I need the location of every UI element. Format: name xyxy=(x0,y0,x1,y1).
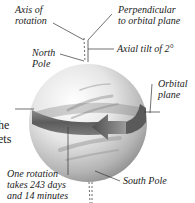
cropped-text-fragment: he ets xyxy=(0,118,11,146)
label-line: Orbital xyxy=(158,78,187,89)
label-axis-of-rotation: Axis of rotation xyxy=(15,4,47,26)
label-one-rotation: One rotation takes 243 days and 14 minut… xyxy=(7,168,68,201)
label-south-pole: South Pole xyxy=(123,175,167,186)
label-perpendicular: Perpendicular to orbital plane xyxy=(118,4,180,26)
fragment-line: ets xyxy=(0,132,11,146)
label-line: plane xyxy=(158,89,187,100)
label-line: Pole xyxy=(32,58,55,69)
label-north-pole: North Pole xyxy=(32,47,55,69)
label-line: Axis of xyxy=(15,4,47,15)
label-line: North xyxy=(32,47,55,58)
label-line: and 14 minutes xyxy=(7,190,68,201)
label-line: South Pole xyxy=(123,175,167,186)
label-orbital-plane: Orbital plane xyxy=(158,78,187,100)
label-line: takes 243 days xyxy=(7,179,68,190)
label-line: Perpendicular xyxy=(118,4,180,15)
label-line: to orbital plane xyxy=(118,15,180,26)
label-axial-tilt: Axial tilt of 2° xyxy=(117,43,174,54)
label-line: rotation xyxy=(15,15,47,26)
label-line: One rotation xyxy=(7,168,68,179)
fragment-line: he xyxy=(0,118,11,132)
label-line: Axial tilt of 2° xyxy=(117,43,174,54)
